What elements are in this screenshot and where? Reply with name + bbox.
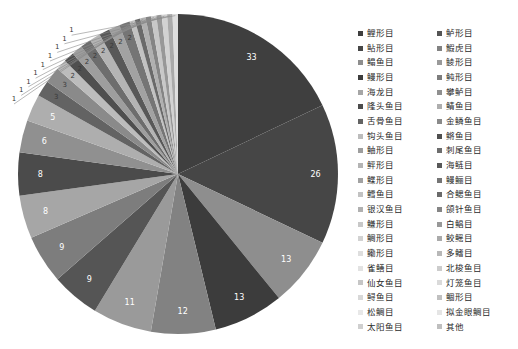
legend-item[interactable]: 海龙目 [358,85,437,100]
legend-item[interactable]: 钩头鱼目 [358,129,437,144]
legend-item[interactable]: 仙女鱼目 [358,275,437,290]
legend-item[interactable]: 灯笼鱼目 [437,275,516,290]
legend-item[interactable]: 拟金眼鲷目 [437,305,516,320]
legend-item[interactable]: 鲴形目 [437,290,516,305]
slice-value-label: 2 [110,42,114,50]
legend-item[interactable]: 金鳞鱼目 [437,114,516,129]
legend-item-label: 鲀形目 [446,73,473,82]
slice-value-label: 2 [93,52,97,60]
legend-item[interactable]: 其他 [437,319,516,334]
legend-item[interactable]: 鲀形目 [437,70,516,85]
legend-swatch-icon [437,104,442,109]
pie-chart-figure: 3326131312119988653322222222111111111 鲤形… [0,0,518,349]
legend-item[interactable]: 鳒形目 [358,217,437,232]
legend-item-label: 灯笼鱼目 [446,279,482,288]
legend-swatch-icon [437,280,442,285]
legend-item-label: 鲇形目 [367,44,394,53]
legend-item[interactable]: 鲭鱼目 [437,99,516,114]
legend-item-label: 舌骨鱼目 [367,117,403,126]
legend-swatch-icon [358,266,363,271]
legend-item-label: 鲭鱼目 [446,102,473,111]
slice-value-label: 1 [19,86,23,94]
legend-item-label: 鰕虎目 [446,44,473,53]
slice-value-label: 33 [246,53,256,62]
legend-item[interactable]: 鲟鱼目 [358,290,437,305]
legend-item[interactable]: 鲉形目 [358,143,437,158]
legend-item[interactable]: 鳎鱼目 [358,55,437,70]
legend-item[interactable]: 鲮形目 [437,55,516,70]
legend-item[interactable]: 鲽形目 [358,173,437,188]
legend-item[interactable]: 多鳍目 [437,246,516,261]
legend-swatch-icon [437,251,442,256]
slice-value-label: 11 [125,298,135,307]
legend-item[interactable]: 鰕虎目 [437,41,516,56]
slice-value-label: 2 [118,38,122,46]
slice-value-label: 8 [38,170,43,179]
legend-item[interactable]: 松鲷目 [358,305,437,320]
legend-item[interactable]: 白鲳目 [437,217,516,232]
legend-item-label: 鲆形目 [367,161,394,170]
legend-swatch-icon [437,178,442,183]
legend-swatch-icon [437,266,442,271]
legend-item-label: 颌针鱼目 [446,205,482,214]
legend-item-label: 仙女鱼目 [367,279,403,288]
slice-value-label: 2 [77,65,81,73]
slice-value-label: 9 [87,275,92,284]
legend-item[interactable]: 鲆形目 [358,158,437,173]
legend-item[interactable]: 鳗鲡目 [437,173,516,188]
legend-swatch-icon [437,31,442,36]
legend-item[interactable]: 银汉鱼目 [358,202,437,217]
legend-item-label: 银汉鱼目 [367,205,403,214]
legend-item[interactable]: 鳉鱼目 [437,129,516,144]
legend-item-label: 海鲢目 [446,161,473,170]
legend-swatch-icon [358,295,363,300]
slice-value-label: 1 [69,26,73,34]
legend-item[interactable]: 太阳鱼目 [358,319,437,334]
legend-item[interactable]: 雀鳝目 [358,261,437,276]
slice-value-label: 9 [59,243,64,252]
legend-item[interactable]: 鲷形目 [358,231,437,246]
legend-item-label: 钩头鱼目 [367,132,403,141]
legend-item[interactable]: 隆头鱼目 [358,99,437,114]
legend-item[interactable]: 攀鲈目 [437,85,516,100]
legend-item-label: 鲉形目 [367,146,394,155]
legend-item[interactable]: 舌骨鱼目 [358,114,437,129]
legend-item[interactable]: 合鳃鱼目 [437,187,516,202]
slice-value-label: 1 [55,43,59,51]
legend-item-label: 攀鲈目 [446,88,473,97]
legend-item[interactable]: 鳗形目 [358,70,437,85]
legend-item[interactable]: 北梭鱼目 [437,261,516,276]
legend-swatch-icon [358,134,363,139]
legend-swatch-icon [358,192,363,197]
legend-item-label: 金鳞鱼目 [446,117,482,126]
legend-item[interactable]: 鲈形目 [437,26,516,41]
legend-item-label: 北梭鱼目 [446,264,482,273]
legend-swatch-icon [358,46,363,51]
legend-swatch-icon [358,222,363,227]
legend-item-label: 雀鳝目 [367,264,394,273]
legend-item-label: 鲈形目 [446,29,473,38]
legend-item-label: 鲷形目 [367,234,394,243]
legend-item-label: 鲮形目 [446,58,473,67]
legend-swatch-icon [358,251,363,256]
legend-item-label: 白鲳目 [446,220,473,229]
legend-item-label: 多鳍目 [446,249,473,258]
legend-item[interactable]: 刺尾鱼目 [437,143,516,158]
legend-item[interactable]: 鲤形目 [358,26,437,41]
legend-item[interactable]: 鳕鱼目 [358,187,437,202]
legend-item-label: 鲽形目 [367,176,394,185]
legend-item[interactable]: 鲛鳐目 [437,231,516,246]
legend-item[interactable]: 颌针鱼目 [437,202,516,217]
slice-value-label: 13 [234,293,244,302]
legend-item[interactable]: 海鲢目 [437,158,516,173]
slice-value-label: 1 [33,69,37,77]
legend-swatch-icon [358,75,363,80]
legend-column: 鲈形目鰕虎目鲮形目鲀形目攀鲈目鲭鱼目金鳞鱼目鳉鱼目刺尾鱼目海鲢目鳗鲡目合鳃鱼目颌… [437,26,516,334]
legend-item[interactable]: 鳓形目 [358,246,437,261]
legend-item[interactable]: 鲇形目 [358,41,437,56]
legend-swatch-icon [358,31,363,36]
legend-swatch-icon [437,310,442,315]
legend-swatch-icon [437,324,442,329]
legend-swatch-icon [437,46,442,51]
legend-item-label: 鲴形目 [446,293,473,302]
